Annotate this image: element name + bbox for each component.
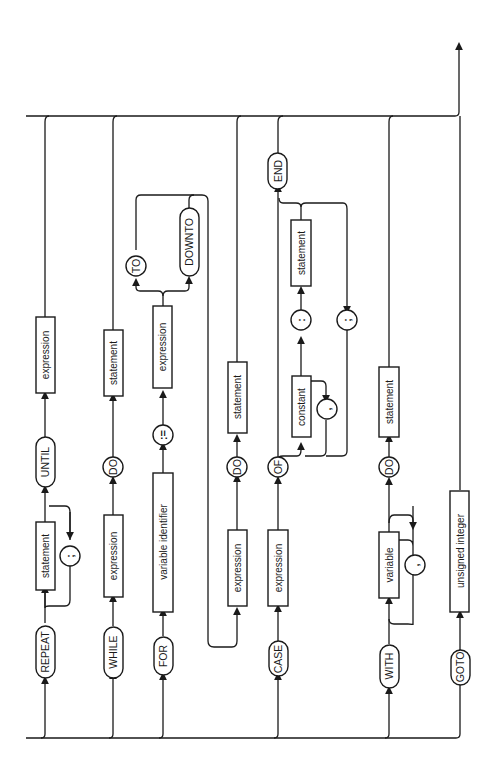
label-expression: expression <box>40 331 51 379</box>
label-do: DO <box>231 459 243 475</box>
label-do: DO <box>383 459 395 475</box>
branch-goto: GOTO unsigned integer <box>450 491 470 685</box>
branch-while: WHILE expression DO statement <box>103 116 123 738</box>
label-expression: expression <box>273 544 284 592</box>
label-expression: expression <box>108 532 119 580</box>
label-statement: statement <box>232 375 243 419</box>
label-expression: expression <box>157 323 168 371</box>
label-of: OF <box>272 460 284 475</box>
label-statement: statement <box>296 231 307 275</box>
label-variable: variable <box>384 547 395 582</box>
label-end: END <box>272 159 284 182</box>
label-to: TO <box>130 259 142 273</box>
label-constant: constant <box>296 388 307 426</box>
label-goto: GOTO <box>454 652 466 683</box>
label-semicolon: ; <box>64 554 76 558</box>
label-expression: expression <box>232 544 243 592</box>
label-statement: statement <box>384 380 395 424</box>
label-comma: , <box>409 563 421 566</box>
label-downto: DOWNTO <box>183 218 195 266</box>
label-with: WITH <box>383 653 395 680</box>
label-statement: statement <box>108 341 119 385</box>
label-variable-identifier: variable identifier <box>158 504 169 580</box>
syntax-diagram: REPEAT statement ; UNTIL expression WHIL… <box>0 0 496 773</box>
label-semicolon: ; <box>341 318 353 322</box>
label-repeat: REPEAT <box>39 631 51 673</box>
label-statement: statement <box>40 534 51 578</box>
branch-for: FOR variable identifier := expression TO… <box>126 195 237 738</box>
label-assign: := <box>157 430 169 440</box>
label-colon: : <box>295 318 307 322</box>
label-unsigned-integer: unsigned integer <box>455 513 466 588</box>
branch-case: CASE expression OF constant , : statemen… <box>268 116 357 738</box>
branch-repeat: REPEAT statement ; UNTIL expression <box>36 116 80 738</box>
branch-for-body: expression DO statement <box>227 116 247 606</box>
label-case: CASE <box>272 645 284 674</box>
label-do: DO <box>107 459 119 475</box>
label-for: FOR <box>157 645 169 668</box>
branch-with: WITH variable , DO statement <box>379 116 425 738</box>
label-while: WHILE <box>107 635 119 668</box>
label-comma: , <box>321 407 333 410</box>
label-until: UNTIL <box>39 447 51 477</box>
